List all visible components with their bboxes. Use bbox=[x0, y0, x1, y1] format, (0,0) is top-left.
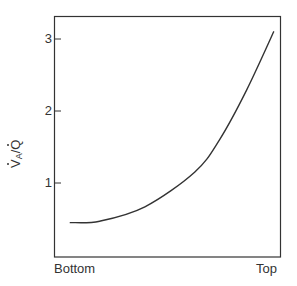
y-title-separator: / bbox=[8, 150, 23, 154]
plot-frame bbox=[55, 17, 281, 258]
va-q-curve bbox=[70, 32, 273, 223]
y-tick-label-3: 3 bbox=[40, 32, 52, 45]
y-title-denominator: Q bbox=[8, 140, 23, 150]
x-label-bottom: Bottom bbox=[54, 262, 95, 276]
y-tick-label-1: 1 bbox=[40, 176, 52, 189]
y-title-numerator: V bbox=[8, 159, 23, 168]
y-tick-label-2: 2 bbox=[40, 104, 52, 117]
y-axis-title: VA/Q bbox=[8, 118, 24, 168]
x-label-top: Top bbox=[256, 262, 277, 276]
